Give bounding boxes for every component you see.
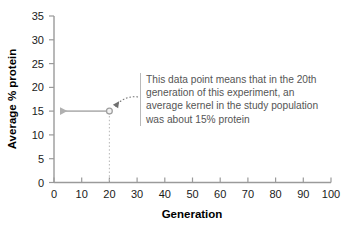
- y-tick-label: 10: [32, 129, 44, 141]
- y-tick-label: 20: [32, 81, 44, 93]
- x-tick-label: 60: [214, 188, 226, 200]
- x-tick-label: 10: [76, 188, 88, 200]
- x-tick-label: 40: [159, 188, 171, 200]
- y-tick-label: 30: [32, 34, 44, 46]
- y-tick-label: 35: [32, 10, 44, 22]
- annotation-line: average kernel in the study population: [146, 99, 345, 112]
- x-tick-label: 80: [269, 188, 281, 200]
- x-tick-label: 0: [51, 188, 57, 200]
- annotation-line: This data point means that in the 20th: [146, 73, 345, 86]
- x-axis-tick-labels: 0 10 20 30 40 50 60 70 80 90 100: [51, 188, 340, 200]
- y-axis-tick-labels: 35 30 25 20 15 10 5 0: [32, 10, 44, 189]
- annotation-line: was about 15% protein: [146, 113, 345, 126]
- annotation-line: generation of this experiment, an: [146, 86, 345, 99]
- y-tick-label: 25: [32, 58, 44, 70]
- x-tick-label: 100: [322, 188, 340, 200]
- x-tick-label: 90: [297, 188, 309, 200]
- x-tick-label: 70: [242, 188, 254, 200]
- y-tick-label: 5: [38, 153, 44, 165]
- y-axis-ticks: [49, 16, 54, 183]
- x-tick-label: 20: [103, 188, 115, 200]
- data-point-marker[interactable]: [107, 108, 113, 114]
- x-tick-label: 30: [131, 188, 143, 200]
- data-point-annotation: This data point means that in the 20th g…: [140, 73, 345, 126]
- x-axis-title: Generation: [162, 208, 223, 220]
- callout-arrow-icon: [116, 97, 139, 107]
- x-axis-ticks: [54, 178, 331, 183]
- y-tick-label: 0: [38, 177, 44, 189]
- x-tick-label: 50: [186, 188, 198, 200]
- protein-generation-scatter-chart: 35 30 25 20 15 10 5 0 0 10 20 30 40 50 6…: [0, 0, 358, 235]
- y-tick-label: 15: [32, 105, 44, 117]
- y-axis-title: Average % protein: [6, 49, 18, 150]
